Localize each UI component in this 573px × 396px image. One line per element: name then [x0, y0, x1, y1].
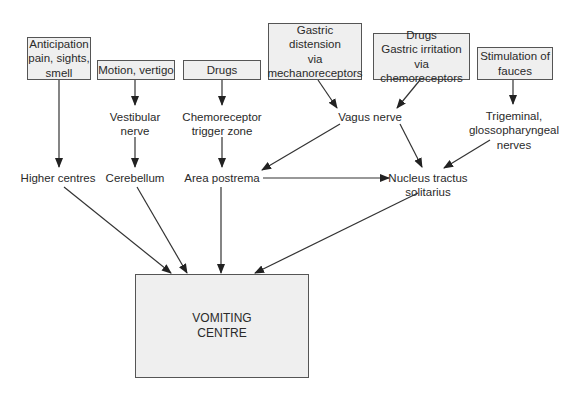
- vagus-nerve-label: Vagus nerve: [338, 110, 402, 124]
- input-gastric-distension: Gastric distension via mechanoreceptors: [268, 23, 362, 80]
- nucleus-tractus-solitarius-label: Nucleus tractus solitarius: [388, 171, 467, 200]
- chemoreceptor-trigger-zone-label: Chemoreceptor trigger zone: [182, 110, 261, 139]
- input-drugs: Drugs: [183, 60, 261, 80]
- higher-centres-label: Higher centres: [21, 171, 96, 185]
- vestibular-nerve-label: Vestibular nerve: [110, 110, 161, 139]
- trigeminal-glossopharyngeal-label: Trigeminal, glossopharyngeal nerves: [469, 109, 559, 152]
- cerebellum-label: Cerebellum: [106, 171, 165, 185]
- input-motion-vertigo: Motion, vertigo: [97, 60, 175, 80]
- input-stimulation-of-fauces: Stimulation of fauces: [477, 47, 553, 80]
- area-postrema-label: Area postrema: [184, 171, 259, 185]
- input-anticipation: Anticipation pain, sights, smell: [27, 37, 91, 80]
- input-drugs-gastric-irritation: Drugs Gastric irritation via chemorecept…: [373, 33, 470, 80]
- vomiting-centre-box: VOMITING CENTRE: [135, 274, 309, 378]
